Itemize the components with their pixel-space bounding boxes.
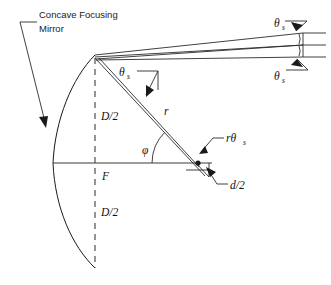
mirror-callout-line2: Mirror (39, 23, 64, 34)
theta-s-upper-subscript: s (282, 23, 285, 32)
theta-s-lower-right-leader (286, 59, 308, 70)
theta-s-apex-label: θ (119, 66, 125, 78)
phi-angle-arc (152, 132, 165, 163)
concave-mirror-arc (53, 55, 95, 268)
theta-s-lower-subscript: s (282, 76, 285, 85)
blur-spot-subscript: s (243, 138, 246, 147)
theta-s-upper-right-leader (285, 21, 307, 31)
aperture-lower-label: D/2 (100, 206, 119, 218)
radius-label: r (164, 105, 169, 117)
blur-spot-label: rθ (226, 132, 236, 144)
mirror-callout-line1: Concave Focusing (39, 9, 118, 20)
right-terminator (299, 33, 326, 57)
mirror-callout-leader (20, 22, 48, 128)
focal-length-label: F (101, 170, 110, 182)
theta-s-upper-label: θ (274, 17, 280, 29)
detector-half-label: d/2 (230, 179, 245, 191)
blur-spot-leader (199, 138, 224, 154)
theta-s-apex-leader (137, 71, 158, 97)
aperture-upper-label: D/2 (100, 110, 119, 122)
theta-s-lower-label: θ (274, 70, 280, 82)
phi-label: φ (142, 144, 149, 157)
optics-diagram: Concave Focusing Mirror θ s θ s θ s D/2 … (0, 0, 331, 285)
right-ray-fan (95, 33, 303, 60)
theta-s-apex-subscript: s (127, 72, 130, 81)
